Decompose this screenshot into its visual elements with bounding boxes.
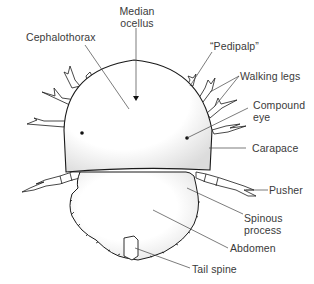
label-median-ocellus-line2: ocellus xyxy=(110,17,164,29)
label-median-ocellus: Median ocellus xyxy=(110,5,164,29)
label-spinous-process: Spinous process xyxy=(244,212,283,236)
left-compound-eye xyxy=(80,131,84,135)
label-median-ocellus-line1: Median xyxy=(110,5,164,17)
label-compound-eye-line2: eye xyxy=(253,111,305,123)
diagram-canvas: Median ocellus Cephalothorax “Pedipalp” … xyxy=(0,0,314,284)
label-compound-eye: Compound eye xyxy=(253,99,305,123)
label-abdomen: Abdomen xyxy=(230,242,276,254)
label-cephalothorax: Cephalothorax xyxy=(26,31,96,43)
label-spinous-process-line1: Spinous xyxy=(244,212,283,224)
label-spinous-process-line2: process xyxy=(244,224,283,236)
label-carapace: Carapace xyxy=(252,142,298,154)
label-tail-spine: Tail spine xyxy=(192,263,237,275)
label-walking-legs: Walking legs xyxy=(240,70,300,82)
label-pedipalp: “Pedipalp” xyxy=(210,40,259,52)
label-compound-eye-line1: Compound xyxy=(253,99,305,111)
label-pusher: Pusher xyxy=(269,184,303,196)
